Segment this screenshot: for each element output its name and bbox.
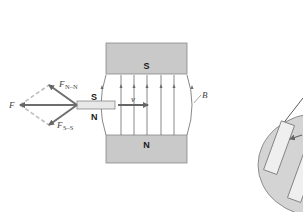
net-force-label: F — [8, 100, 15, 110]
force-s-s-subscript: S–S — [63, 124, 74, 131]
velocity-arrow: v — [118, 94, 148, 105]
force-s-s-label: F — [56, 120, 63, 130]
force-n-n-label: F — [58, 79, 65, 89]
small-magnet-bottom-label: N — [91, 112, 98, 122]
field-label-group: B — [194, 90, 208, 103]
force-n-n-label-group: F N–N — [58, 79, 78, 90]
force-n-n-subscript: N–N — [65, 83, 78, 90]
velocity-label: v — [131, 94, 135, 104]
small-magnet-top-label: S — [91, 92, 97, 102]
inset-magnified-view — [258, 98, 303, 212]
force-s-s-label-group: F S–S — [56, 120, 74, 131]
top-magnet: S — [106, 43, 187, 74]
field-label: B — [202, 90, 208, 100]
small-bar-magnet: S N — [77, 92, 115, 122]
force-arrows — [20, 85, 77, 125]
top-magnet-pole-label: S — [143, 61, 149, 71]
bottom-magnet-pole-label: N — [143, 140, 150, 150]
bottom-magnet: N — [106, 135, 187, 163]
force-s-s-arrow — [49, 105, 77, 125]
magnet-force-diagram: S N B v S N — [0, 0, 303, 212]
